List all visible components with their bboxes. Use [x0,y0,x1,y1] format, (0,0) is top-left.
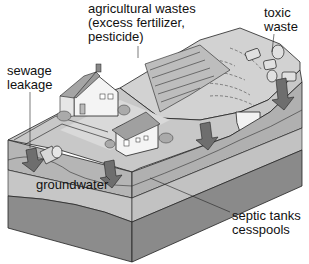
label-line: toxic [264,6,298,20]
label-groundwater: groundwater [36,178,108,192]
label-line: waste [264,20,298,34]
label-toxic-waste: toxic waste [264,6,298,34]
label-line: cesspools [232,223,301,237]
label-line: septic tanks [232,209,301,223]
label-sewage-leakage: sewage leakage [7,64,53,92]
label-line: pesticide) [88,30,196,44]
label-line: leakage [7,78,53,92]
label-line: (excess fertilizer, [88,16,196,30]
label-agricultural-wastes: agricultural wastes (excess fertilizer, … [88,2,196,44]
label-line: agricultural wastes [88,2,196,16]
label-line: sewage [7,64,53,78]
label-septic-tanks: septic tanks cesspools [232,209,301,237]
